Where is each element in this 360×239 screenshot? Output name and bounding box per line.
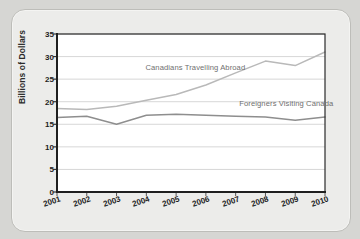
line-chart-figure: Billions of Dollars 05101520253035 20012… — [0, 0, 360, 239]
series-annotation: Canadians Travelling Abroad — [145, 63, 245, 72]
plot-background — [57, 34, 325, 192]
series-annotation: Foreigners Visiting Canada — [239, 99, 333, 108]
